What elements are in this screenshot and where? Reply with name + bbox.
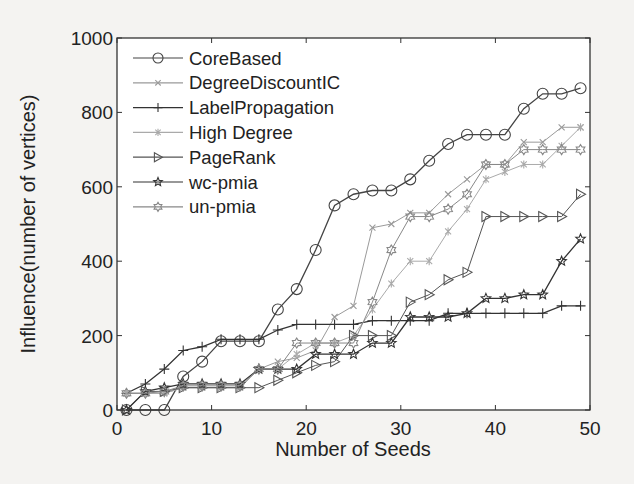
x-axis-label: Number of Seeds: [275, 438, 431, 460]
legend-label: un-pmia: [189, 196, 257, 217]
y-tick-label: 600: [81, 177, 113, 198]
y-tick-label: 800: [81, 102, 113, 123]
legend-label: wc-pmia: [188, 172, 259, 193]
y-tick-label: 1000: [71, 28, 113, 49]
x-tick-label: 20: [296, 418, 317, 439]
y-tick-label: 400: [81, 251, 113, 272]
x-tick-label: 10: [201, 418, 222, 439]
legend-label: High Degree: [189, 122, 293, 143]
x-tick-label: 30: [390, 418, 411, 439]
legend-label: PageRank: [189, 147, 276, 168]
legend-label: DegreeDiscountIC: [189, 72, 340, 93]
y-tick-label: 0: [102, 400, 113, 421]
influence-chart: 0102030405002004006008001000 CoreBasedDe…: [0, 0, 634, 484]
x-tick-label: 50: [579, 418, 600, 439]
x-tick-label: 40: [485, 418, 506, 439]
y-tick-label: 200: [81, 326, 113, 347]
legend-label: LabelPropagation: [189, 97, 334, 118]
y-axis-label: Influence(number of vertices): [17, 94, 39, 353]
legend-label: CoreBased: [189, 48, 282, 69]
x-tick-label: 0: [112, 418, 123, 439]
